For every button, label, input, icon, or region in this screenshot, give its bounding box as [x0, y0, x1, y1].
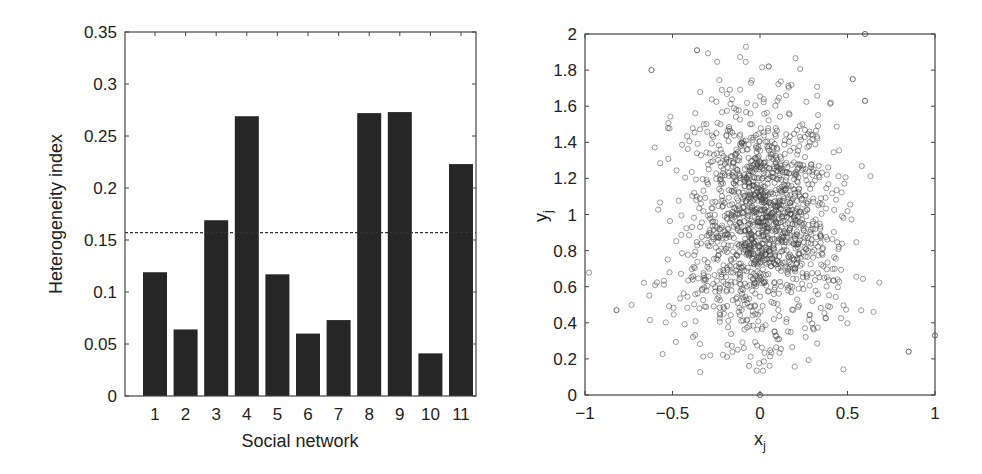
scatter-point	[782, 244, 787, 249]
scatter-point	[641, 280, 646, 285]
scatter-point	[689, 225, 694, 230]
scatter-y-axis-label: yj	[531, 210, 555, 222]
scatter-point	[726, 318, 731, 323]
scatter-point	[727, 220, 732, 225]
bar	[357, 113, 381, 396]
scatter-point	[715, 59, 720, 64]
scatter-point	[717, 319, 722, 324]
scatter-point	[819, 211, 824, 216]
y-tick-label: 1.6	[553, 97, 577, 116]
scatter-point	[729, 331, 734, 336]
scatter-point	[652, 145, 657, 150]
scatter-point	[839, 316, 844, 321]
scatter-point	[845, 321, 850, 326]
scatter-point	[825, 260, 830, 265]
scatter-point	[682, 322, 687, 327]
y-tick-label: 1.4	[553, 133, 577, 152]
scatter-point	[726, 195, 731, 200]
y-tick-label: 2	[568, 25, 577, 44]
scatter-point	[833, 294, 838, 299]
scatter-point	[729, 243, 734, 248]
scatter-point	[676, 198, 681, 203]
scatter-point	[665, 257, 670, 262]
scatter-point	[658, 200, 663, 205]
scatter-point	[801, 163, 806, 168]
scatter-point	[788, 148, 793, 153]
scatter-point	[793, 56, 798, 61]
scatter-point	[671, 312, 676, 317]
scatter-point	[801, 287, 806, 292]
scatter-point	[854, 274, 859, 279]
scatter-point	[674, 239, 679, 244]
scatter-point	[716, 143, 721, 148]
scatter-point	[731, 249, 736, 254]
scatter-point	[844, 307, 849, 312]
scatter-point	[666, 156, 671, 161]
scatter-point	[811, 255, 816, 260]
scatter-point	[704, 150, 709, 155]
x-tick-label: −1	[575, 404, 594, 423]
scatter-point	[647, 317, 652, 322]
scatter-point	[698, 370, 703, 375]
bar	[449, 164, 473, 396]
scatter-point	[797, 303, 802, 308]
scatter-point	[726, 139, 731, 144]
scatter-point	[732, 133, 737, 138]
scatter-point	[726, 325, 731, 330]
scatter-point	[647, 293, 652, 298]
scatter-point	[737, 117, 742, 122]
scatter-point	[810, 299, 815, 304]
scatter-point	[718, 269, 723, 274]
scatter-point	[775, 301, 780, 306]
scatter-point	[712, 273, 717, 278]
x-tick-label: 5	[273, 405, 282, 424]
bar	[204, 220, 228, 396]
scatter-point	[738, 87, 743, 92]
scatter-point	[724, 108, 729, 113]
scatter-point	[815, 93, 820, 98]
scatter-point	[823, 206, 828, 211]
scatter-point	[795, 148, 800, 153]
scatter-point	[746, 363, 751, 368]
scatter-point	[842, 181, 847, 186]
scatter-point	[746, 142, 751, 147]
scatter-point	[702, 257, 707, 262]
scatter-point	[762, 350, 767, 355]
scatter-point	[802, 245, 807, 250]
scatter-point	[660, 351, 665, 356]
scatter-plot-frame	[585, 34, 935, 395]
y-tick-label: 0.6	[553, 278, 577, 297]
scatter-point	[756, 319, 761, 324]
scatter-point	[840, 241, 845, 246]
bar-series	[143, 112, 473, 396]
scatter-point	[680, 142, 685, 147]
scatter-point	[729, 288, 734, 293]
scatter-point	[743, 59, 748, 64]
scatter-point	[728, 101, 733, 106]
scatter-point	[666, 121, 671, 126]
scatter-point	[795, 152, 800, 157]
scatter-point	[790, 276, 795, 281]
scatter-point	[586, 270, 591, 275]
scatter-point	[697, 306, 702, 311]
scatter-point	[803, 335, 808, 340]
scatter-point	[656, 207, 661, 212]
scatter-point	[696, 276, 701, 281]
scatter-point	[694, 151, 699, 156]
scatter-point	[686, 278, 691, 283]
scatter-point	[790, 345, 795, 350]
scatter-point	[684, 134, 689, 139]
y-tick-label: 1.2	[553, 169, 577, 188]
scatter-point	[771, 317, 776, 322]
scatter-point	[818, 305, 823, 310]
scatter-point	[678, 271, 683, 276]
bar	[327, 320, 351, 396]
scatter-point	[760, 65, 765, 70]
scatter-point	[830, 191, 835, 196]
scatter-point	[815, 341, 820, 346]
scatter-point	[807, 169, 812, 174]
scatter-point	[803, 193, 808, 198]
scatter-point	[788, 226, 793, 231]
scatter-point	[831, 150, 836, 155]
scatter-point	[684, 226, 689, 231]
